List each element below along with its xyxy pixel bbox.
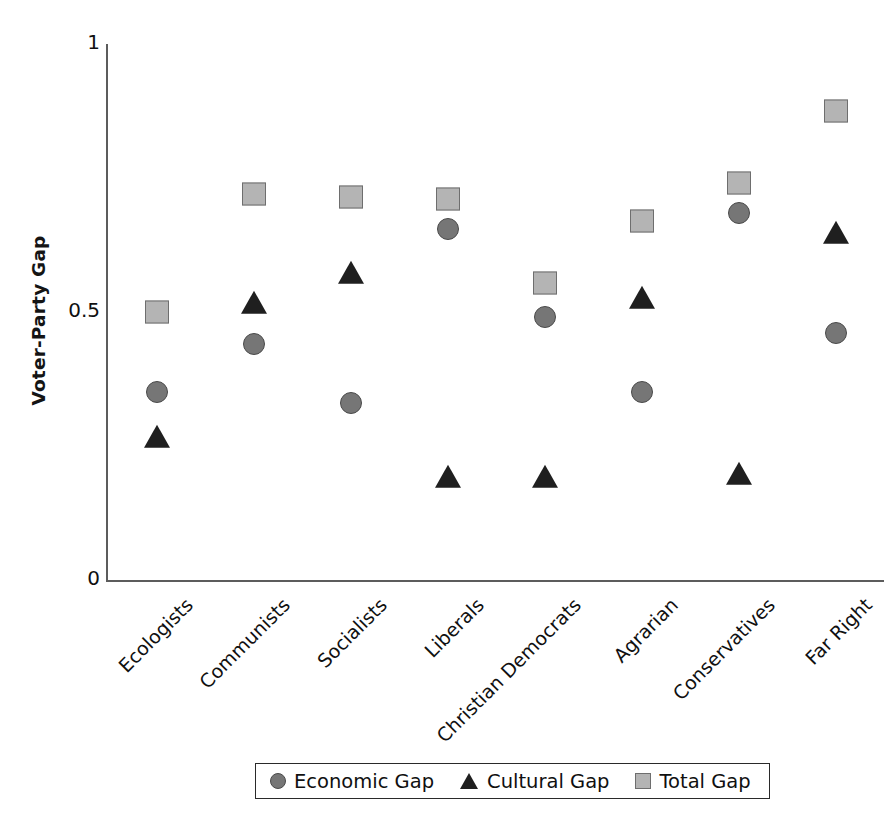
- data-point-circle: [340, 392, 362, 414]
- data-point-square: [533, 271, 557, 294]
- legend-entry: Economic Gap: [270, 770, 434, 793]
- data-point-circle: [243, 333, 265, 355]
- chart-legend: Economic GapCultural GapTotal Gap: [255, 763, 770, 799]
- x-tick-label-text: Liberals: [420, 592, 489, 661]
- chart-figure: Voter-Party Gap 00.51 EcologistsCommunis…: [0, 0, 894, 825]
- data-point-triangle: [241, 291, 267, 314]
- data-point-square: [242, 183, 266, 206]
- y-axis-tick-labels: 00.51: [40, 0, 100, 825]
- data-point-square: [630, 209, 654, 232]
- legend-swatch-circle-icon: [270, 773, 286, 789]
- x-tick-label-text: Far Right: [800, 592, 877, 669]
- data-point-square: [339, 185, 363, 208]
- data-point-triangle: [435, 465, 461, 488]
- y-tick-label: 0.5: [56, 298, 100, 322]
- data-point-triangle: [629, 285, 655, 308]
- data-point-square: [824, 100, 848, 123]
- data-point-circle: [437, 218, 459, 240]
- legend-label: Economic Gap: [294, 770, 434, 793]
- data-point-circle: [728, 202, 750, 224]
- legend-swatch-triangle-icon: [460, 773, 478, 789]
- x-tick-label-text: Ecologists: [114, 592, 199, 677]
- data-point-triangle: [726, 462, 752, 485]
- x-tick-label-text: Conservatives: [668, 592, 780, 704]
- y-tick-label: 1: [56, 30, 100, 54]
- data-point-triangle: [144, 425, 170, 448]
- data-point-circle: [534, 306, 556, 328]
- data-point-square: [145, 301, 169, 324]
- y-tick-label: 0: [56, 566, 100, 590]
- data-point-circle: [825, 322, 847, 344]
- x-tick-label-text: Agrarian: [609, 592, 683, 666]
- plot-area: [108, 44, 884, 580]
- legend-swatch-square-icon: [635, 773, 651, 789]
- data-point-square: [727, 172, 751, 195]
- legend-label: Total Gap: [659, 770, 750, 793]
- data-point-circle: [146, 381, 168, 403]
- legend-entry: Total Gap: [635, 770, 750, 793]
- data-point-circle: [631, 381, 653, 403]
- data-point-square: [436, 188, 460, 211]
- data-point-triangle: [338, 261, 364, 284]
- x-tick-label-text: Communists: [194, 592, 295, 693]
- data-point-triangle: [823, 221, 849, 244]
- legend-label: Cultural Gap: [487, 770, 609, 793]
- data-point-triangle: [532, 465, 558, 488]
- x-tick-label-text: Socialists: [312, 592, 392, 672]
- legend-entry: Cultural Gap: [460, 770, 609, 793]
